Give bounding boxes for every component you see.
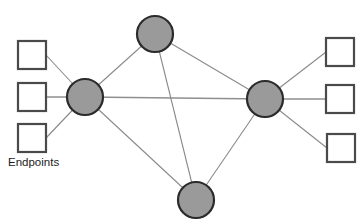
- endpoint-right-bottom[interactable]: [327, 134, 355, 162]
- endpoint-right-top[interactable]: [326, 38, 354, 66]
- endpoint-left-bottom[interactable]: [18, 124, 46, 152]
- endpoint-left-top[interactable]: [18, 41, 46, 69]
- endpoint-left-middle[interactable]: [18, 83, 46, 111]
- core-node-bottom[interactable]: [178, 182, 214, 218]
- network-diagram: Endpoints: [0, 0, 364, 223]
- core-node-top[interactable]: [137, 16, 173, 52]
- core-node-right[interactable]: [247, 81, 283, 117]
- endpoints-caption: Endpoints: [8, 156, 59, 168]
- network-topology-canvas: Endpoints: [0, 0, 364, 223]
- core-node-left[interactable]: [67, 79, 103, 115]
- endpoint-right-middle[interactable]: [326, 85, 354, 113]
